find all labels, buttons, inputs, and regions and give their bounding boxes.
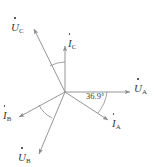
phasor-symbol-U_A: U (134, 82, 142, 94)
phasor-symbol-I_A: I (112, 117, 116, 129)
phasor-subscript-U_A: A (142, 88, 147, 96)
angle-arcs (39, 62, 107, 118)
phasor-subscript-I_C: C (72, 43, 77, 51)
phasor-dot-I_C (69, 33, 71, 35)
phasor-dot-I_B (4, 105, 6, 107)
angle-label-36-9: 36.9° (86, 92, 104, 101)
phasor-label-U_C: UC (11, 18, 24, 35)
phasor-line-U_B (39, 92, 65, 154)
phasor-symbol-U_B: U (18, 151, 26, 163)
phasor-dot-U_B (21, 147, 23, 149)
phasor-subscript-I_A: A (116, 123, 121, 131)
phasor-line-U_C (34, 29, 65, 92)
phasor-subscript-I_B: B (7, 115, 12, 123)
phasor-dot-I_A (113, 113, 115, 115)
phasor-line-I_B (19, 92, 65, 117)
phasor-label-I_A: IA (112, 114, 121, 131)
phasor-label-I_B: IB (3, 106, 11, 123)
phasor-label-U_A: UA (134, 79, 147, 96)
phasor-label-I_C: IC (68, 34, 76, 51)
phasor-symbol-U_C: U (11, 21, 19, 33)
phasor-dot-U_A (137, 78, 139, 80)
phasor-subscript-U_C: C (19, 27, 24, 35)
phasor-symbol-I_C: I (68, 37, 72, 49)
phasor-diagram-figure: UC IC UA IB IA UB 36.9° (0, 0, 157, 167)
phasor-symbol-I_B: I (3, 109, 7, 121)
phasor-dot-U_C (14, 17, 16, 19)
phasor-subscript-U_B: B (26, 157, 31, 165)
angle-arc-IB-UB (39, 105, 52, 118)
phasor-label-U_B: UB (18, 148, 31, 165)
